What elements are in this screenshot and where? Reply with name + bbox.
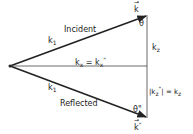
- theta-reflected-label: θ": [133, 106, 142, 114]
- k-reflected-vector-label: k"→: [134, 122, 141, 132]
- k1-top-label: k1: [48, 37, 56, 46]
- incident-label: Incident: [64, 26, 96, 34]
- k-vector-label: k→: [134, 6, 139, 14]
- origin-point: [9, 65, 12, 68]
- reflected-vector: [10, 66, 146, 117]
- reflected-label: Reflected: [60, 100, 98, 108]
- k1-bottom-label: k1: [48, 84, 56, 93]
- kx-equation-label: kx = kx": [75, 57, 106, 68]
- theta-label: θ: [139, 20, 144, 28]
- kz-label: kz: [152, 44, 160, 53]
- kz-reflected-equation-label: |kz"| = kz: [149, 86, 181, 97]
